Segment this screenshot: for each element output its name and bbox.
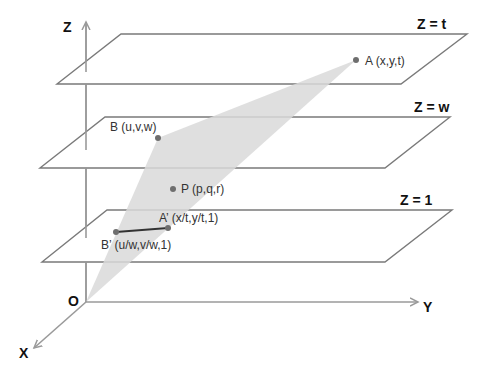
plane-z-1-label: Z = 1 [400, 192, 433, 208]
plane-z-w-label: Z = w [414, 99, 450, 115]
point-a-prime-label: A’ (x/t,y/t,1) [159, 211, 218, 225]
point-p [170, 186, 176, 192]
point-b-prime-label: B’ (u/w,v/w,1) [101, 238, 171, 252]
point-b-prime [113, 229, 119, 235]
y-axis-label: Y [423, 299, 433, 315]
x-axis-label: X [19, 345, 29, 361]
plane-z-t [57, 34, 467, 84]
origin-label: O [68, 293, 79, 309]
point-a [353, 57, 359, 63]
plane-z-t-label: Z = t [417, 16, 447, 32]
point-b [155, 135, 161, 141]
point-p-label: P (p,q,r) [181, 182, 224, 196]
point-a-label: A (x,y,t) [365, 54, 405, 68]
shaded-plane-oab [86, 60, 356, 302]
point-a-prime [165, 225, 171, 231]
projective-diagram: Z Y X O Z = t Z = w Z = 1 A (x,y,t) B (u… [0, 0, 487, 377]
plane-z-1 [42, 210, 452, 262]
point-b-label: B (u,v,w) [110, 120, 156, 134]
z-axis-label: Z [63, 19, 72, 35]
